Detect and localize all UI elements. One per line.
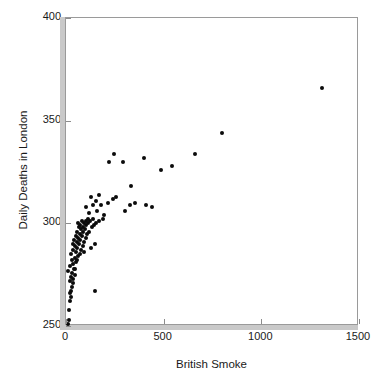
scatter-point bbox=[129, 184, 133, 188]
y-axis-tick bbox=[66, 121, 71, 122]
scatter-point bbox=[68, 299, 72, 303]
scatter-point bbox=[78, 252, 82, 256]
y-axis-tick-label: 400 bbox=[27, 11, 61, 22]
scatter-point bbox=[128, 203, 132, 207]
scatter-point bbox=[159, 168, 163, 172]
scatter-point bbox=[91, 203, 95, 207]
y-axis-tick bbox=[66, 326, 71, 327]
scatter-point bbox=[87, 211, 91, 215]
scatter-point bbox=[99, 203, 103, 207]
y-axis-tick bbox=[66, 223, 71, 224]
scatter-point bbox=[95, 209, 99, 213]
scatter-plot-figure: 250300350400 050010001500 Daily Deaths i… bbox=[0, 0, 382, 384]
scatter-point bbox=[150, 205, 154, 209]
scatter-point bbox=[93, 289, 97, 293]
plot-area bbox=[65, 17, 358, 325]
scatter-point bbox=[106, 201, 110, 205]
scatter-point bbox=[170, 164, 174, 168]
y-axis-tick-label: 250 bbox=[27, 319, 61, 330]
scatter-point bbox=[70, 271, 74, 275]
y-axis-tick-label: 300 bbox=[27, 216, 61, 227]
scatter-point bbox=[89, 246, 93, 250]
scatter-point bbox=[69, 289, 73, 293]
scatter-point bbox=[84, 205, 88, 209]
x-axis-tick bbox=[261, 319, 262, 324]
scatter-point bbox=[81, 244, 85, 248]
scatter-point bbox=[94, 199, 98, 203]
scatter-point bbox=[84, 236, 88, 240]
scatter-point bbox=[144, 203, 148, 207]
x-axis-title: British Smoke bbox=[65, 358, 358, 370]
x-axis-tick bbox=[359, 319, 360, 324]
scatter-point bbox=[220, 131, 224, 135]
scatter-point bbox=[69, 252, 73, 256]
scatter-point bbox=[193, 152, 197, 156]
x-axis-tick-label: 1000 bbox=[238, 331, 282, 342]
scatter-point bbox=[93, 242, 97, 246]
scatter-point bbox=[73, 267, 77, 271]
scatter-point bbox=[121, 160, 125, 164]
scatter-point bbox=[133, 201, 137, 205]
scatter-point bbox=[320, 86, 324, 90]
x-axis-tick-label: 500 bbox=[141, 331, 185, 342]
y-axis-title: Daily Deaths in London bbox=[17, 75, 29, 265]
scatter-point bbox=[97, 193, 101, 197]
scatter-point bbox=[142, 156, 146, 160]
scatter-points-layer bbox=[66, 18, 359, 326]
y-axis-tick-label: 350 bbox=[27, 114, 61, 125]
scatter-point bbox=[67, 308, 71, 312]
y-axis-tick bbox=[66, 18, 71, 19]
scatter-point bbox=[112, 152, 116, 156]
scatter-point bbox=[114, 195, 118, 199]
scatter-point bbox=[89, 195, 93, 199]
x-axis-tick-labels: 050010001500 bbox=[65, 331, 358, 347]
scatter-point bbox=[82, 250, 86, 254]
scatter-point bbox=[123, 209, 127, 213]
scatter-point bbox=[71, 242, 75, 246]
x-axis-tick bbox=[66, 319, 67, 324]
scatter-point bbox=[70, 285, 74, 289]
scatter-point bbox=[67, 318, 71, 322]
scatter-point bbox=[102, 213, 106, 217]
scatter-point bbox=[101, 217, 105, 221]
scatter-point bbox=[82, 240, 86, 244]
scatter-point bbox=[87, 230, 91, 234]
x-axis-tick-label: 1500 bbox=[336, 331, 380, 342]
x-axis-tick bbox=[164, 319, 165, 324]
scatter-point bbox=[91, 217, 95, 221]
scatter-point bbox=[107, 160, 111, 164]
scatter-point bbox=[69, 295, 73, 299]
scatter-point bbox=[66, 269, 70, 273]
x-axis-tick-label: 0 bbox=[43, 331, 87, 342]
